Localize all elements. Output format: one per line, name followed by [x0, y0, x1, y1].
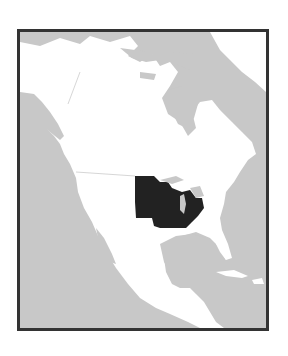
- map-frame: [17, 29, 269, 331]
- north-america-map: [20, 32, 266, 328]
